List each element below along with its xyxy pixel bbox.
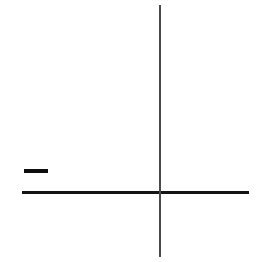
- diagram-canvas: Axis cross with minus dash A thin vertic…: [0, 0, 257, 262]
- minus-dash-segment: [24, 169, 48, 173]
- horizontal-axis-line: [22, 191, 249, 194]
- vertical-axis-line: [159, 5, 161, 257]
- figure-title: Axis cross with minus dash: [0, 0, 1, 1]
- figure-description: A thin vertical line crossing a thicker …: [0, 0, 1, 1]
